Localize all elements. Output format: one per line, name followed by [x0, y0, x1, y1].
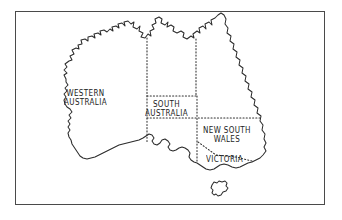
label-new-south-wales: NEW SOUTH WALES: [203, 125, 251, 145]
label-south-australia-line2: AUSTRALIA: [145, 109, 188, 119]
label-south-australia-line1: SOUTH: [145, 99, 188, 109]
label-victoria: VICTORIA: [206, 155, 243, 165]
label-south-australia: SOUTH AUSTRALIA: [145, 99, 188, 119]
label-new-south-wales-line2: WALES: [203, 135, 251, 145]
label-western-australia-line2: AUSTRALIA: [64, 98, 107, 108]
label-new-south-wales-line1: NEW SOUTH: [203, 125, 251, 135]
map-screenshot: WESTERN AUSTRALIA SOUTH AUSTRALIA NEW SO…: [0, 0, 342, 220]
label-western-australia-line1: WESTERN: [64, 88, 107, 98]
label-victoria-line1: VICTORIA: [206, 155, 243, 165]
tasmania-coastline: [211, 181, 228, 196]
label-western-australia: WESTERN AUSTRALIA: [64, 88, 107, 108]
